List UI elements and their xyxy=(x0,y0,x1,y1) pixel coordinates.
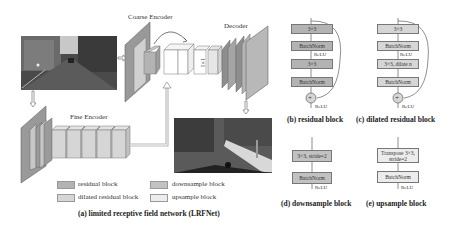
fine-encoder-label: Fine Encoder xyxy=(70,113,108,121)
d-relu-out: ReLU xyxy=(315,185,327,190)
input-street-image xyxy=(21,36,117,90)
legend-swatch-dilated xyxy=(57,194,75,202)
decoder-label: Decoder xyxy=(224,22,248,30)
e-batchnorm: BatchNorm xyxy=(377,171,419,183)
caption-b: (b) residual block xyxy=(287,115,343,124)
c-conv1: 3×3 xyxy=(377,24,419,34)
legend-swatch-downsample xyxy=(150,181,168,189)
caption-d: (d) downsample block xyxy=(281,199,351,208)
c-conv-dilated: 3×3, dilate n xyxy=(377,59,419,69)
caption-c: (c) dilated residual block xyxy=(356,115,435,124)
b-batchnorm2: BatchNorm xyxy=(291,77,333,87)
b-relu-mid: ReLU xyxy=(314,52,326,57)
b-conv2: 3×3 xyxy=(291,59,333,69)
caption-e: (e) upsample block xyxy=(366,199,426,208)
legend-label-residual: residual block xyxy=(78,180,117,188)
d-batchnorm: BatchNorm xyxy=(292,172,332,184)
b-conv1: 3×3 xyxy=(291,24,333,34)
e-relu-out: ReLU xyxy=(401,185,413,190)
c-relu-out: ReLU xyxy=(402,104,414,109)
legend-swatch-residual xyxy=(57,181,75,189)
b-batchnorm1: BatchNorm xyxy=(291,41,333,51)
d-conv-stride: 3×3, stride=2 xyxy=(292,150,332,162)
e-transpose-conv: Transpose 3×3, stride=2 xyxy=(377,148,419,163)
legend-label-downsample: downsample block xyxy=(172,180,225,188)
b-add-icon: + xyxy=(308,94,312,102)
c-batchnorm1: BatchNorm xyxy=(377,41,419,51)
conv1x1-label: 1×1 xyxy=(200,58,206,67)
c-relu-mid: ReLU xyxy=(400,52,412,57)
b-relu-out: ReLU xyxy=(315,104,327,109)
c-add-icon: + xyxy=(395,94,399,102)
coarse-encoder-label: Coarse Encoder xyxy=(128,13,173,21)
output-segmentation-image xyxy=(174,118,272,173)
legend-label-dilated: dilated residual block xyxy=(78,193,138,201)
caption-a: (a) limited receptive field network (LRF… xyxy=(78,209,220,218)
c-batchnorm2: BatchNorm xyxy=(377,77,419,87)
legend-swatch-upsample xyxy=(150,194,168,202)
legend-label-upsample: upsample block xyxy=(172,193,216,201)
